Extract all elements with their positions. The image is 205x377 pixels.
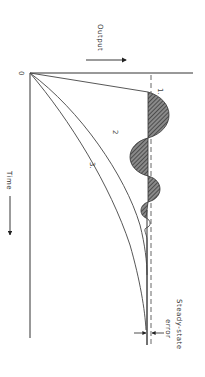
curve-3-label: 3. — [88, 162, 96, 169]
curve-1-lobe-2 — [130, 138, 148, 176]
origin-label: 0 — [17, 71, 25, 75]
error-label: error — [164, 319, 172, 338]
curve-1-label: 1. — [156, 88, 164, 95]
curve-1-lobe-3 — [148, 176, 160, 202]
curve-1-rise — [30, 73, 148, 92]
curve-3 — [30, 73, 146, 330]
output-axis-label: Output — [96, 24, 104, 51]
curve-1-lobe-1 — [148, 92, 169, 138]
curve-2-label: 2 — [111, 130, 119, 134]
steady-state-label: Steady-state — [175, 299, 183, 350]
time-axis-label: Time — [5, 170, 13, 190]
step-response-diagram: 0 Output Time 1. 2 3. Steady-state error — [0, 0, 205, 377]
